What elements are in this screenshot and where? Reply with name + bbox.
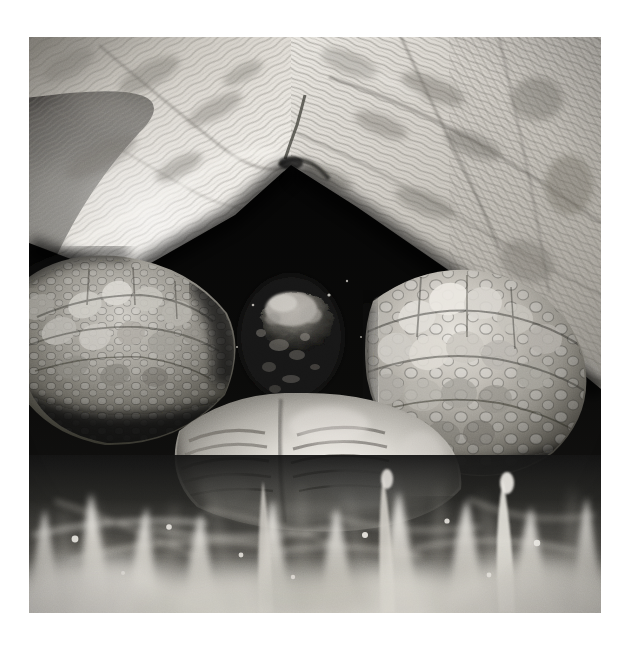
tortoise-photograph xyxy=(29,37,601,613)
margin-bottom xyxy=(0,613,630,646)
margin-right xyxy=(601,0,630,646)
vignette-overlay xyxy=(29,37,601,613)
margin-left xyxy=(0,0,29,646)
margin-top xyxy=(0,0,630,37)
photo-page: Close-up black and white photograph of a… xyxy=(0,0,630,646)
photo-canvas xyxy=(29,37,601,613)
